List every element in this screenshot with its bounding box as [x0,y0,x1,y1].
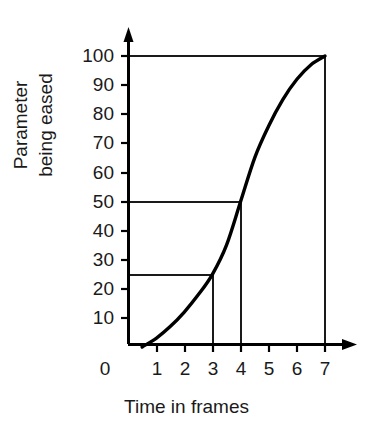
y-axis-arrowhead [124,27,134,42]
y-tick-label-40: 40 [60,220,114,242]
x-tick-label-2: 2 [180,358,191,380]
x-tick-label-3: 3 [208,358,219,380]
y-tick-label-100: 100 [60,45,114,67]
x-axis [128,339,357,352]
x-tick-label-4: 4 [236,358,247,380]
y-tick-label-80: 80 [60,103,114,125]
x-axis-title: Time in frames [0,396,373,418]
y-axis [121,27,134,344]
x-tick-label-6: 6 [292,358,303,380]
easing-curve-chart: 100 90 80 70 60 50 40 30 20 10 0 1 2 3 4… [0,0,373,428]
x-tick-label-5: 5 [264,358,275,380]
y-tick-label-50: 50 [60,191,114,213]
x-axis-arrowhead [342,339,357,350]
y-tick-label-70: 70 [60,132,114,154]
y-axis-title: Parameter being eased [8,30,58,220]
guide-lines [128,56,325,344]
x-tick-label-1: 1 [152,358,163,380]
y-tick-label-20: 20 [60,278,114,300]
y-tick-label-10: 10 [60,307,114,329]
x-tick-label-7: 7 [320,358,331,380]
y-tick-label-60: 60 [60,162,114,184]
y-tick-label-90: 90 [60,74,114,96]
y-axis-title-line-1: Parameter [8,30,33,220]
y-tick-label-30: 30 [60,249,114,271]
y-axis-ticks [121,56,128,318]
x-tick-label-0: 0 [100,358,111,380]
y-axis-title-line-2: being eased [33,30,58,220]
